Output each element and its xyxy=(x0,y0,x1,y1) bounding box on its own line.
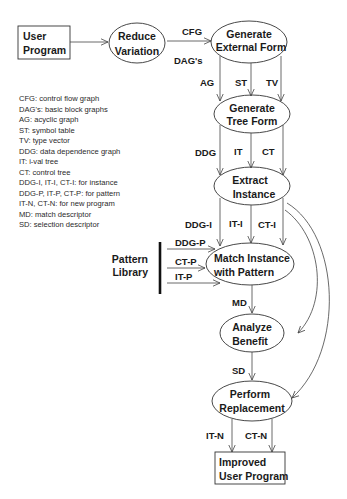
edge-label-it-p: IT-P xyxy=(175,271,193,282)
edge-labels: CFG DAG's AG ST TV DDG IT CT DDG-I IT-I … xyxy=(174,26,279,441)
edge-label-ag: AG xyxy=(200,77,214,88)
legend: CFG: control flow graph DAG's: basic blo… xyxy=(19,94,120,229)
node-generate-tree-form: Generate Tree Form xyxy=(214,95,290,133)
legend-item: DDG: data dependence graph xyxy=(19,147,120,156)
node-label: Generate xyxy=(226,28,272,40)
node-perform-replacement: Perform Replacement xyxy=(212,381,292,421)
legend-item: MD: match descriptor xyxy=(19,210,92,219)
node-analyze-benefit: Analyze Benefit xyxy=(220,314,284,352)
edge-label-ddg: DDG xyxy=(195,147,216,158)
legend-item: SD: selection descriptor xyxy=(19,220,100,229)
legend-item: CFG: control flow graph xyxy=(19,94,99,103)
edge-label-ct-i: CT-I xyxy=(258,219,276,230)
node-label: Generate xyxy=(229,102,275,114)
edge-label-it-n: IT-N xyxy=(206,430,224,441)
node-label: with Pattern xyxy=(213,266,274,278)
legend-item: IT-N, CT-N: for new program xyxy=(19,199,115,208)
edge-label-it-i: IT-I xyxy=(229,218,243,229)
edge-label-ddg-i: DDG-I xyxy=(185,219,212,230)
node-label: External Form xyxy=(216,41,287,53)
edge-label-tv: TV xyxy=(266,77,279,88)
node-label: Program xyxy=(23,44,66,56)
node-label: Analyze xyxy=(232,321,272,333)
node-label: Reduce xyxy=(118,30,156,42)
node-label: Pattern xyxy=(112,253,148,265)
flow-diagram: User Program Reduce Variation Generate E… xyxy=(0,0,347,499)
node-generate-external-form: Generate External Form xyxy=(211,21,287,63)
edge-label-st: ST xyxy=(235,77,247,88)
node-label: Instance xyxy=(233,188,276,200)
node-label: Benefit xyxy=(232,335,268,347)
node-label: User xyxy=(23,30,46,42)
node-pattern-library: Pattern Library xyxy=(112,242,160,294)
edge-label-cfg: CFG xyxy=(182,26,202,37)
legend-item: ST: symbol table xyxy=(19,126,75,135)
legend-item: IT: i-val tree xyxy=(19,157,58,166)
node-reduce-variation: Reduce Variation xyxy=(109,23,165,63)
edge-label-md: MD xyxy=(232,297,247,308)
node-label: User Program xyxy=(219,470,288,482)
legend-item: TV: type vector xyxy=(19,136,70,145)
node-improved-user-program: Improved User Program xyxy=(215,452,288,484)
node-user-program: User Program xyxy=(18,26,70,59)
edge-label-ct-n: CT-N xyxy=(245,430,267,441)
node-label: Extract xyxy=(232,174,268,186)
edge-label-dags: DAG's xyxy=(174,55,203,66)
node-label: Library xyxy=(112,266,148,278)
node-label: Match Instance xyxy=(214,252,290,264)
node-label: Tree Form xyxy=(227,115,278,127)
legend-item: AG: acyclic graph xyxy=(19,115,79,124)
edge-label-ct: CT xyxy=(262,146,275,157)
node-label: Perform xyxy=(230,388,270,400)
legend-item: CT: control tree xyxy=(19,168,71,177)
legend-item: DAG's: basic block graphs xyxy=(19,105,108,114)
legend-item: DDG-P, IT-P, CT-P: for pattern xyxy=(19,189,120,198)
edge-label-it: IT xyxy=(234,146,243,157)
edge-label-ddg-p: DDG-P xyxy=(175,237,206,248)
edge-label-ct-p: CT-P xyxy=(175,256,197,267)
node-label: Variation xyxy=(115,45,159,57)
edge-label-sd: SD xyxy=(232,365,245,376)
legend-item: DDG-I, IT-I, CT-I: for instance xyxy=(19,178,118,187)
node-match-instance: Match Instance with Pattern xyxy=(206,243,294,285)
node-label: Replacement xyxy=(219,402,285,414)
node-extract-instance: Extract Instance xyxy=(214,167,290,205)
node-label: Improved xyxy=(219,456,266,468)
